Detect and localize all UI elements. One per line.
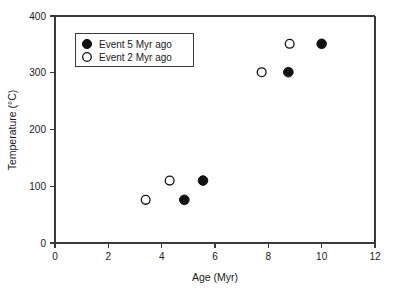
y-tick-label: 400 bbox=[29, 11, 46, 22]
x-tick-label: 6 bbox=[212, 251, 218, 262]
x-axis-title: Age (Myr) bbox=[192, 271, 238, 283]
data-point-open-circle bbox=[141, 195, 150, 204]
y-tick-label: 0 bbox=[40, 238, 46, 249]
x-axis-ticks: 024681012 bbox=[52, 243, 381, 262]
data-point-filled-circle bbox=[317, 39, 327, 49]
data-point-filled-circle bbox=[180, 195, 190, 205]
legend-marker-open-circle bbox=[83, 53, 92, 62]
y-tick-label: 100 bbox=[29, 181, 46, 192]
legend-marker-filled-circle bbox=[82, 39, 91, 48]
y-axis-ticks: 0100200300400 bbox=[29, 11, 55, 249]
data-point-filled-circle bbox=[198, 176, 208, 186]
y-axis-title: Temperature (°C) bbox=[6, 90, 18, 171]
x-tick-label: 8 bbox=[266, 251, 272, 262]
x-tick-label: 12 bbox=[369, 251, 381, 262]
data-point-open-circle bbox=[257, 68, 266, 77]
legend-label-event-5-myr-ago: Event 5 Myr ago bbox=[99, 39, 172, 50]
data-point-filled-circle bbox=[284, 67, 294, 77]
legend-label-event-2-myr-ago: Event 2 Myr ago bbox=[99, 52, 172, 63]
x-tick-label: 0 bbox=[52, 251, 58, 262]
data-point-open-circle bbox=[165, 176, 174, 185]
chart-legend: Event 5 Myr ago Event 2 Myr ago bbox=[76, 34, 194, 67]
y-tick-label: 200 bbox=[29, 124, 46, 135]
data-point-open-circle bbox=[285, 39, 294, 48]
plot-canvas: 024681012 0100200300400 Age (Myr) Temper… bbox=[0, 0, 395, 290]
scatter-chart-figure: 024681012 0100200300400 Age (Myr) Temper… bbox=[0, 0, 395, 290]
x-tick-label: 10 bbox=[316, 251, 328, 262]
x-tick-label: 2 bbox=[106, 251, 112, 262]
y-tick-label: 300 bbox=[29, 67, 46, 78]
x-tick-label: 4 bbox=[159, 251, 165, 262]
